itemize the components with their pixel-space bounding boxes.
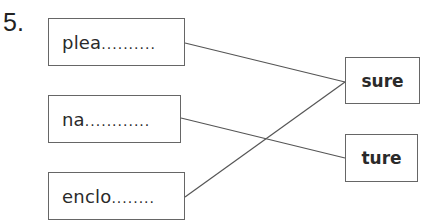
ending-label: sure [361,71,403,91]
word-stem: na [62,109,85,130]
line-na-ture [181,118,345,158]
ending-box-ture[interactable]: ture [345,134,418,182]
blank-dots: ............ [85,113,150,129]
blank-dots: .......... [101,36,156,52]
blank-dots: ........ [111,190,155,206]
word-stem: plea [62,32,101,53]
word-box-enclo[interactable]: enclo........ [48,172,185,220]
ending-box-sure[interactable]: sure [345,57,420,104]
word-box-na[interactable]: na............ [48,95,181,143]
word-box-plea[interactable]: plea.......... [48,18,185,66]
ending-label: ture [361,148,401,168]
line-plea-sure [185,43,345,82]
word-stem: enclo [62,186,111,207]
line-enclo-sure [185,82,345,197]
